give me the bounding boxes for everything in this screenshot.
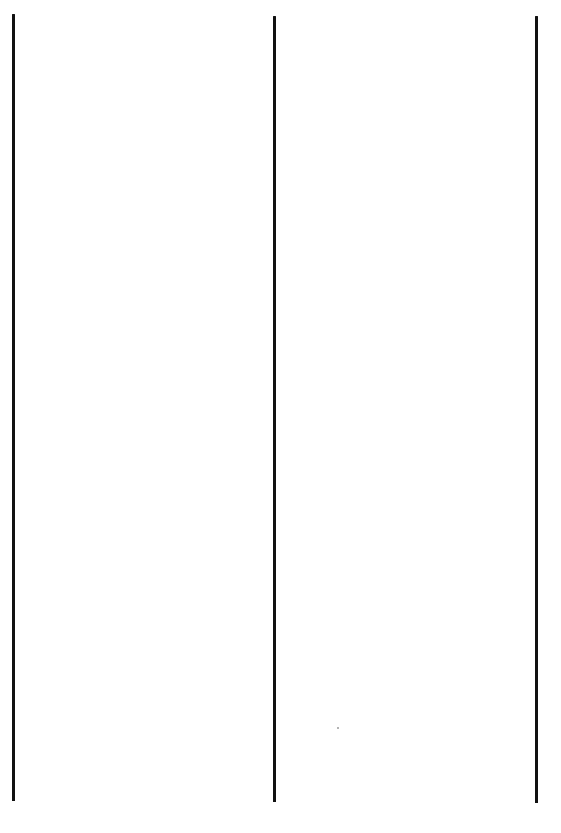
dust-speck — [337, 727, 339, 729]
vertical-line-middle — [273, 16, 276, 802]
vertical-line-left — [12, 14, 15, 801]
vertical-line-right — [535, 16, 538, 803]
blank-page — [0, 0, 561, 833]
